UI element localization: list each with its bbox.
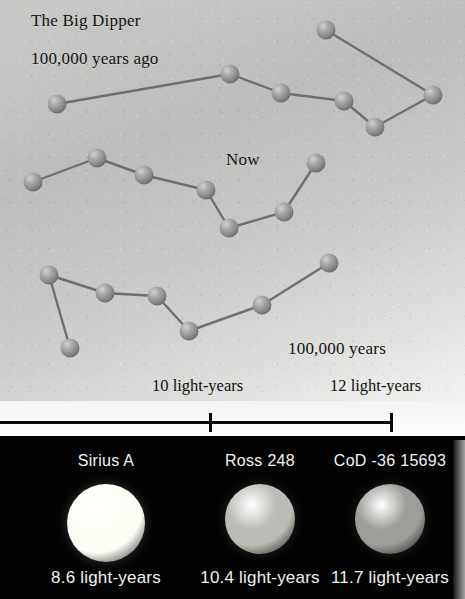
scale-tick-12ly bbox=[390, 413, 393, 432]
sky-diagram-panel: The Big Dipper 100,000 years ago Now 100… bbox=[0, 0, 465, 401]
constellation-link bbox=[326, 30, 433, 95]
star-disc-icon bbox=[225, 484, 295, 554]
constellation-star bbox=[220, 219, 239, 238]
constellation-star bbox=[40, 266, 59, 285]
constellation-star bbox=[96, 284, 115, 303]
constellation-star bbox=[148, 287, 167, 306]
constellation-star bbox=[307, 154, 326, 173]
constellation-star bbox=[48, 95, 67, 114]
star-distance-label: 8.6 light-years bbox=[26, 568, 186, 588]
constellation-link bbox=[57, 74, 230, 104]
star-name-label: Ross 248 bbox=[190, 452, 330, 470]
constellation-star bbox=[88, 149, 107, 168]
constellation-link bbox=[144, 175, 206, 190]
star-photo-panel: Sirius A 8.6 light-years Ross 248 10.4 l… bbox=[0, 440, 465, 599]
constellation-star bbox=[275, 203, 294, 222]
star-name-label: Sirius A bbox=[26, 452, 186, 470]
page-title: The Big Dipper bbox=[31, 11, 141, 32]
star-cell-ross-248: Ross 248 10.4 light-years bbox=[190, 440, 330, 599]
scale-label-10ly: 10 light-years bbox=[152, 376, 243, 396]
constellation-star bbox=[424, 86, 443, 105]
star-disc-icon bbox=[355, 484, 425, 554]
constellation-star bbox=[197, 181, 216, 200]
star-disc-icon bbox=[67, 484, 145, 562]
constellation-link bbox=[189, 305, 262, 331]
label-future-line1: 100,000 years bbox=[288, 339, 386, 360]
constellation-star bbox=[317, 21, 336, 40]
label-past-epoch: 100,000 years ago bbox=[31, 49, 159, 70]
star-cell-sirius-a: Sirius A 8.6 light-years bbox=[26, 440, 186, 599]
constellation-star bbox=[61, 339, 80, 358]
constellation-star bbox=[135, 166, 154, 185]
constellation-star bbox=[366, 118, 385, 137]
constellation-star bbox=[253, 296, 272, 315]
constellation-link bbox=[375, 95, 433, 127]
star-distance-label: 11.7 light-years bbox=[320, 568, 460, 588]
constellation-link bbox=[281, 93, 344, 101]
scale-bar-band: 10 light-years 12 light-years bbox=[0, 401, 465, 441]
star-distance-label: 10.4 light-years bbox=[190, 568, 330, 588]
big-dipper-figure: The Big Dipper 100,000 years ago Now 100… bbox=[0, 0, 465, 599]
scale-tick-10ly bbox=[209, 413, 212, 432]
label-now-epoch: Now bbox=[226, 150, 260, 171]
constellation-link bbox=[49, 275, 70, 348]
constellation-star bbox=[272, 84, 291, 103]
constellation-star bbox=[335, 92, 354, 111]
constellation-star bbox=[320, 254, 339, 273]
constellation-link bbox=[33, 158, 97, 182]
constellation-star bbox=[24, 173, 43, 192]
scale-label-12ly: 12 light-years bbox=[330, 376, 421, 396]
star-cell-cod-36-15693: CoD -36 15693 11.7 light-years bbox=[320, 440, 460, 599]
constellation-star bbox=[221, 65, 240, 84]
star-name-label: CoD -36 15693 bbox=[320, 452, 460, 470]
constellation-star bbox=[180, 322, 199, 341]
scale-bar-line bbox=[0, 421, 393, 424]
